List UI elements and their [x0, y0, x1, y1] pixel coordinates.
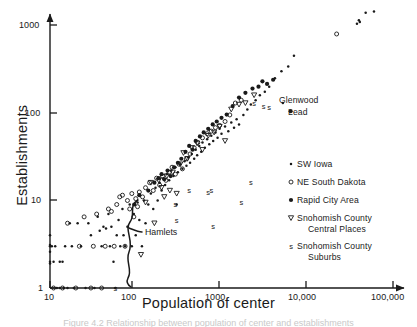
legend-label-text: NE South Dakota: [297, 177, 366, 187]
legend-item-ne-south-dakota: NE South Dakota: [297, 178, 366, 187]
data-point: [125, 199, 129, 203]
data-point: [128, 207, 132, 211]
data-point: [246, 108, 249, 111]
data-point: [151, 189, 155, 193]
data-point: [150, 192, 153, 195]
data-point: [243, 91, 247, 95]
data-point: [134, 197, 138, 201]
data-point: [172, 165, 176, 169]
data-point: [102, 226, 105, 229]
data-point: [91, 244, 95, 248]
legend-marker-open-triangle-down: [288, 216, 293, 221]
figure-container: ssssssssssss s 1000 100 10 1 10 100 1000…: [0, 0, 417, 327]
data-point: [208, 143, 211, 146]
y-axis-title: Establishments: [15, 95, 30, 215]
data-point: [115, 203, 119, 207]
data-point: [198, 134, 202, 138]
data-point: [229, 107, 234, 112]
data-point: [54, 245, 57, 248]
legend-item-rapid-city-area: Rapid City Area: [297, 196, 359, 205]
data-point: s: [252, 99, 256, 108]
legend-label-text: Rapid City Area: [297, 195, 359, 205]
data-point: [181, 168, 184, 171]
data-point: [51, 245, 54, 248]
data-point: [137, 193, 141, 197]
data-point: [82, 215, 86, 219]
data-point: s: [239, 198, 243, 207]
data-point: [98, 230, 101, 233]
data-point: [61, 260, 64, 263]
data-point: [225, 112, 229, 116]
data-point: [224, 125, 227, 128]
data-point: [124, 245, 127, 248]
data-point: [152, 208, 155, 211]
legend-item-sw-iowa: SW Iowa: [297, 160, 332, 169]
data-point: [235, 118, 238, 121]
legend-label-text-line2: Suburbs: [297, 253, 372, 262]
data-point: [71, 245, 74, 248]
legend-label-text: Snohomish County: [297, 213, 372, 223]
data-point: [259, 94, 262, 97]
annotation-hamlets: Hamlets: [145, 228, 177, 237]
data-point: [233, 126, 236, 129]
data-point: [103, 244, 107, 248]
data-point: [264, 90, 267, 93]
data-point: [93, 287, 96, 290]
data-point: [66, 287, 69, 290]
data-point: s: [262, 102, 266, 111]
data-point: [49, 234, 52, 237]
legend-marker-letter-s: s: [289, 242, 293, 251]
data-point: [76, 222, 79, 225]
data-point: [193, 158, 196, 161]
data-point: [112, 260, 115, 263]
data-point: [64, 245, 67, 248]
data-point: [223, 119, 227, 123]
data-point: [132, 202, 136, 206]
data-point: s: [174, 200, 178, 209]
data-point: [128, 203, 131, 206]
data-point: [144, 222, 147, 225]
data-point: [109, 245, 112, 248]
data-point: [135, 234, 138, 237]
data-point: [219, 116, 223, 120]
figure-caption: Figure 4.2 Relationship between populati…: [0, 318, 417, 327]
data-point: [138, 219, 141, 222]
data-point: [49, 250, 52, 253]
data-point: [359, 21, 362, 24]
data-point: [242, 114, 245, 117]
data-point: [250, 87, 254, 91]
data-point: [156, 199, 159, 202]
data-point: s: [187, 186, 191, 195]
data-point: [356, 22, 359, 25]
data-point: [256, 85, 260, 89]
y-tick-label-1: 1: [38, 284, 43, 293]
hamlets-bracket-tip: [129, 228, 142, 232]
data-point: [271, 78, 275, 82]
y-tick-label-10: 10: [31, 196, 41, 205]
data-point: [165, 168, 169, 172]
data-point: [189, 162, 192, 165]
data-point: [268, 85, 271, 88]
data-point: [238, 123, 241, 126]
data-point: [107, 213, 110, 216]
legend-markers-layer: s: [288, 163, 293, 251]
data-point: [146, 188, 150, 192]
data-point: [100, 245, 103, 248]
data-point: [119, 245, 122, 248]
data-point: [90, 234, 93, 237]
data-point: [126, 226, 129, 229]
data-point: [167, 188, 172, 193]
data-point: s: [114, 284, 118, 293]
scatter-plot-canvas: ssssssssssss s: [0, 0, 417, 327]
hamlets-bracket: [127, 200, 138, 287]
data-point: [212, 140, 215, 143]
data-point: [237, 95, 241, 99]
data-point: [201, 141, 204, 144]
data-point: [136, 201, 139, 204]
data-point: [84, 287, 87, 290]
data-point: [287, 65, 290, 68]
data-point: [252, 93, 257, 98]
legend-label-text-line2: Central Places: [297, 225, 372, 234]
data-point: [109, 209, 113, 213]
data-point: [105, 227, 108, 230]
